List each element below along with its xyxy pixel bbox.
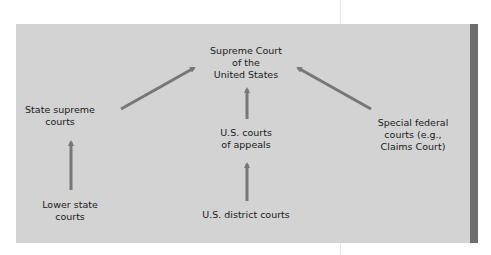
node-text-line: Supreme Court	[210, 45, 282, 57]
arrow-state-supreme-to-supreme-court	[121, 68, 194, 109]
node-courts-of-appeals: U.S. courts of appeals	[220, 127, 272, 151]
node-lower-state-courts: Lower state courts	[42, 199, 98, 223]
node-text-line: of the	[210, 57, 282, 69]
node-text-line: Claims Court)	[378, 141, 449, 153]
node-text-line: U.S. district courts	[202, 209, 290, 221]
node-text-line: United States	[210, 69, 282, 81]
node-text-line: State supreme	[25, 104, 95, 116]
node-state-supreme-courts: State supreme courts	[25, 104, 95, 128]
node-text-line: U.S. courts	[220, 127, 272, 139]
node-text-line: courts (e.g.,	[378, 129, 449, 141]
arrow-special-federal-to-supreme-court	[298, 68, 371, 109]
node-text-line: Special federal	[378, 117, 449, 129]
node-special-federal-courts: Special federal courts (e.g., Claims Cou…	[378, 117, 449, 153]
node-text-line: courts	[42, 211, 98, 223]
node-text-line: of appeals	[220, 139, 272, 151]
node-text-line: Lower state	[42, 199, 98, 211]
node-text-line: courts	[25, 116, 95, 128]
node-supreme-court: Supreme Court of the United States	[210, 45, 282, 81]
node-district-courts: U.S. district courts	[202, 209, 290, 221]
